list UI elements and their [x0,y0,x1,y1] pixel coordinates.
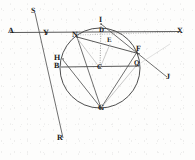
point-label-I: I [99,16,102,24]
chord-G-Q [101,66,136,108]
chord-G-F [101,52,137,108]
faint-line-to-J [136,44,170,66]
point-label-X: X [177,27,183,35]
line-S-R [35,13,63,138]
point-label-A: A [8,27,14,35]
point-label-B: B [54,62,59,70]
point-label-E: E [107,37,112,44]
dotted-N-X [78,32,176,35]
point-label-C: C [97,64,102,71]
geometry-figure: A S X J R I Y N D E F H B C Q G [0,0,195,160]
chord-H-G [63,60,101,108]
point-label-G: G [98,104,104,112]
chord-N-G [77,37,101,108]
point-label-Y: Y [43,29,49,37]
point-label-D: D [99,27,104,34]
point-label-S: S [31,7,35,15]
point-label-F: F [136,45,141,53]
construction-lines [10,13,180,138]
line-A-X [10,32,180,33]
point-label-N: N [72,31,78,39]
point-label-R: R [57,134,63,142]
point-label-Q: Q [134,60,139,67]
point-label-J: J [166,73,170,81]
